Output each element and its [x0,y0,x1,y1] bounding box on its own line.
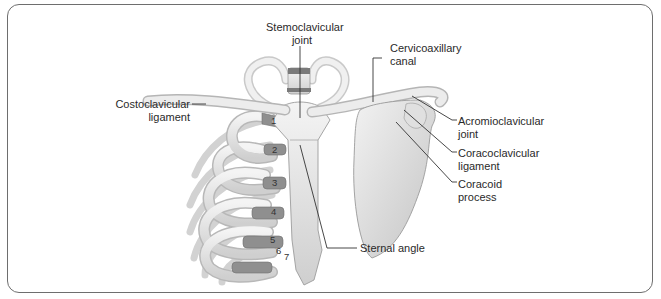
label-line-2: process [458,191,502,204]
sternum [272,102,330,285]
label-line-1: Acromioclavicular [458,115,544,128]
svg-text:4: 4 [271,206,276,217]
label-coracoid-process: Coracoid process [458,178,502,203]
label-line-2: joint [458,128,544,141]
label-line-1: Costoclavicular [100,98,190,111]
label-coracoclavicular-ligament: Coracoclavicular ligament [458,147,539,172]
label-line-2: ligament [100,111,190,124]
label-line-2: canal [390,55,462,68]
svg-text:5: 5 [270,234,275,245]
label-line-1: Cervicoaxillary [390,42,462,55]
label-costoclavicular-ligament: Costoclavicular ligament [100,98,190,123]
label-cervicoaxillary-canal: Cervicoaxillary canal [390,42,462,67]
label-line-1: Coracoclavicular [458,147,539,160]
label-sternoclavicular-joint: Stemoclavicular joint [266,21,338,46]
thoracic-vertebra [287,68,311,94]
label-line-1: Stemoclavicular [266,21,338,34]
label-line-1: Coracoid [458,178,502,191]
label-line-2: joint [266,34,338,47]
label-acromioclavicular-joint: Acromioclavicular joint [458,115,544,140]
svg-text:1: 1 [271,115,276,126]
svg-text:6: 6 [276,245,281,256]
scapula [354,100,436,258]
label-sternal-angle: Sternal angle [360,242,425,255]
svg-text:3: 3 [272,177,277,188]
svg-text:7: 7 [284,251,289,262]
label-line-2: ligament [458,160,539,173]
svg-text:2: 2 [272,144,277,155]
